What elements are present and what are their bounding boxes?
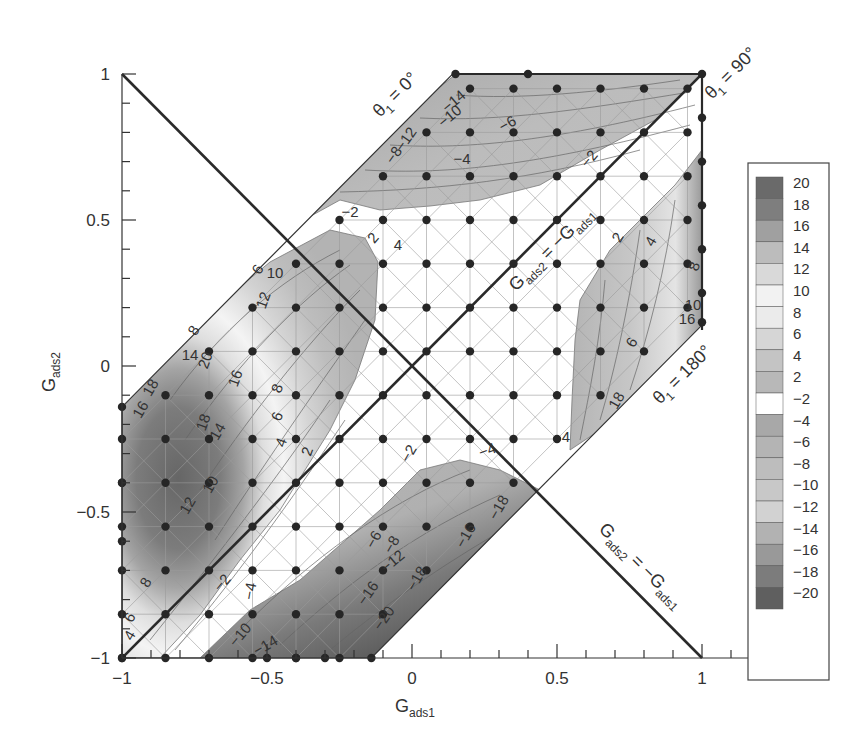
colorbar-label: −4 [793,412,810,429]
colorbar-label: −20 [793,584,818,601]
sample-point [596,303,604,311]
sample-point [379,435,387,443]
y-tick-label: 0 [101,357,110,376]
sample-point [335,347,343,355]
sample-point [509,347,517,355]
sample-point [640,128,648,136]
sample-point [379,522,387,530]
sample-point [466,260,474,268]
sample-point [248,347,256,355]
contour-label: 10 [267,264,284,281]
colorbar-label: 10 [793,282,810,299]
sample-point [422,128,430,136]
colorbar-swatch [756,328,783,350]
colorbar-label: −6 [793,433,810,450]
colorbar-label: −12 [793,498,818,515]
colorbar-swatch [756,501,783,523]
sample-point [553,347,561,355]
sample-point [553,84,561,92]
colorbar-swatch [756,199,783,221]
colorbar-swatch [756,263,783,285]
sample-point [292,260,300,268]
y-tick-labels: −1−0.500.51 [76,65,110,668]
sample-point [466,347,474,355]
sample-point [205,566,213,574]
x-tick-label: 0.5 [545,669,569,688]
sample-point [509,260,517,268]
sample-point [161,391,169,399]
y-tick-label: 1 [101,65,110,84]
colorbar-label: 14 [793,239,810,256]
sample-point [161,435,169,443]
colorbar-label: −10 [793,476,818,493]
sample-point [466,435,474,443]
sample-point [509,172,517,180]
sample-point [248,610,256,618]
colorbar-swatch [756,415,783,437]
colorbar-swatch [756,587,783,609]
sample-point [422,479,430,487]
colorbar-label: −8 [793,455,810,472]
sample-point [698,114,706,122]
sample-point [553,260,561,268]
contour-label: 16 [679,310,696,327]
sample-point [640,347,648,355]
sample-point [335,610,343,618]
sample-point [596,260,604,268]
sample-point [161,479,169,487]
colorbar-swatch [756,479,783,501]
sample-point [451,70,459,78]
sample-point [698,157,706,165]
sample-point [553,172,561,180]
sample-point [335,260,343,268]
colorbar-label: 16 [793,217,810,234]
sample-point [698,318,706,326]
sample-point [640,84,648,92]
sample-point [422,303,430,311]
sample-point [466,391,474,399]
sample-point [379,172,387,180]
colorbar-label: 4 [793,347,801,364]
contour-label: 4 [562,428,570,445]
sample-point [205,391,213,399]
colorbar-swatch [756,177,783,199]
sample-point [466,479,474,487]
sample-point [596,391,604,399]
sample-point [466,216,474,224]
colorbar-label: −16 [793,541,818,558]
sample-point [422,347,430,355]
colorbar-swatches [756,177,783,609]
colorbar-swatch [756,285,783,307]
sample-point [683,216,691,224]
sample-point [205,522,213,530]
sample-point [509,391,517,399]
sample-point [292,479,300,487]
sample-point [596,128,604,136]
colorbar-swatch [756,350,783,372]
sample-point [466,303,474,311]
x-axis-title: Gads1 [395,696,435,720]
diagonal-lower-label: Gads2 = −Gads1 [592,519,688,615]
contour-label: 4 [394,236,402,253]
colorbar-swatch [756,436,783,458]
x-tick-labels: −1−0.500.51 [112,669,706,688]
sample-point [379,391,387,399]
sample-point [596,84,604,92]
sample-point [379,260,387,268]
theta-90-label: θ1 = 90° [701,43,764,106]
sample-point [422,216,430,224]
sample-point [683,84,691,92]
sample-point [509,84,517,92]
contour-label: −4 [240,581,260,601]
sample-point [422,522,430,530]
sample-point [640,260,648,268]
sample-point [379,303,387,311]
sample-point [640,303,648,311]
sample-point [422,391,430,399]
sample-point [205,610,213,618]
sample-point [292,303,300,311]
sample-point [509,435,517,443]
colorbar-label: 18 [793,196,810,213]
contour-label: −4 [453,150,470,167]
sample-point [335,566,343,574]
